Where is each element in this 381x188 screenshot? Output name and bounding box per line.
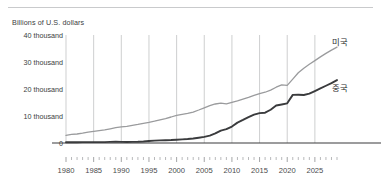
x-tick-label-2005: 2005: [196, 166, 213, 175]
x-tick-label-1995: 1995: [141, 166, 158, 175]
x-axis-ticks-group: [66, 157, 337, 162]
x-tick-label-1985: 1985: [85, 166, 102, 175]
gridlines-group: [66, 35, 315, 143]
chart-figure: Billions of U.S. dollars 010 thousand20 …: [0, 0, 381, 188]
y-tick-label-20000: 20 thousand: [23, 85, 63, 94]
line-chart-svg: 010 thousand20 thousand30 thousand40 tho…: [0, 0, 381, 188]
series-label-0: 미국: [332, 37, 348, 47]
y-tick-label-10000: 10 thousand: [23, 112, 63, 121]
y-tick-label-40000: 40 thousand: [23, 31, 63, 40]
x-tick-label-2015: 2015: [251, 166, 268, 175]
x-tick-label-1980: 1980: [58, 166, 75, 175]
y-tick-label-30000: 30 thousand: [23, 58, 63, 67]
series-labels-group: 미국중국: [332, 37, 348, 93]
x-tick-label-2000: 2000: [168, 166, 185, 175]
x-tick-label-2010: 2010: [223, 166, 240, 175]
series-label-1: 중국: [332, 83, 348, 93]
x-tick-label-2025: 2025: [306, 166, 323, 175]
x-tick-label-1990: 1990: [113, 166, 130, 175]
x-tick-label-2020: 2020: [279, 166, 296, 175]
y-axis-labels-group: 010 thousand20 thousand30 thousand40 tho…: [23, 31, 63, 148]
series-line-1: [66, 80, 337, 142]
data-series-group: [66, 47, 337, 142]
x-axis-labels-group: 1980198519901995200020052010201520202025: [58, 166, 324, 175]
series-line-0: [66, 47, 337, 135]
